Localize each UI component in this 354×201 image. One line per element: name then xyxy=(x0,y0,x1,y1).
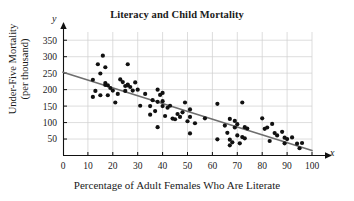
x-tick-label: 80 xyxy=(257,161,267,171)
data-point xyxy=(131,89,135,93)
data-point xyxy=(156,100,160,104)
data-point xyxy=(106,93,110,97)
data-point xyxy=(151,98,155,102)
data-point xyxy=(193,121,197,125)
data-point xyxy=(91,95,95,99)
scatter-plot-figure: Literacy and Child Mortality y x Under-F… xyxy=(0,0,354,201)
data-point xyxy=(188,115,192,119)
data-point xyxy=(225,131,229,135)
data-point xyxy=(156,88,160,92)
data-point xyxy=(148,104,152,108)
x-tick-label: 40 xyxy=(158,161,168,171)
data-point xyxy=(148,113,152,117)
data-point xyxy=(223,123,227,127)
data-point xyxy=(290,135,294,139)
data-point xyxy=(161,99,165,103)
data-point xyxy=(300,141,304,145)
data-point xyxy=(91,78,95,82)
data-point xyxy=(283,141,287,145)
data-point xyxy=(243,136,247,140)
data-point xyxy=(230,140,234,144)
data-point xyxy=(215,102,219,106)
data-point xyxy=(111,89,115,93)
data-point xyxy=(275,133,279,137)
data-point xyxy=(98,71,102,75)
plot-canvas: 0102030405060708090100501001502002503003… xyxy=(0,0,354,201)
y-tick-label: 100 xyxy=(43,118,58,128)
data-point xyxy=(268,139,272,143)
data-point xyxy=(163,114,167,118)
data-point xyxy=(116,92,120,96)
data-point xyxy=(203,116,207,120)
y-axis-arrowhead xyxy=(60,22,66,29)
data-point xyxy=(126,62,130,66)
data-point xyxy=(235,122,239,126)
data-point xyxy=(188,131,192,135)
x-tick-label: 70 xyxy=(233,161,243,171)
data-point xyxy=(260,116,264,120)
data-point xyxy=(215,137,219,141)
data-point xyxy=(123,89,127,93)
data-point xyxy=(103,65,107,69)
data-point xyxy=(285,137,289,141)
data-point xyxy=(270,122,274,126)
data-point xyxy=(143,92,147,96)
x-tick-label: 0 xyxy=(61,161,66,171)
data-point xyxy=(113,100,117,104)
x-tick-label: 60 xyxy=(208,161,218,171)
y-tick-label: 200 xyxy=(43,85,58,95)
data-point xyxy=(133,80,137,84)
x-axis-arrowhead xyxy=(325,152,332,158)
data-point xyxy=(136,88,140,92)
data-point xyxy=(128,85,132,89)
data-point xyxy=(188,107,192,111)
data-point xyxy=(168,104,172,108)
data-points xyxy=(91,54,304,151)
x-tick-label: 50 xyxy=(183,161,193,171)
data-point xyxy=(98,93,102,97)
y-tick-label: 350 xyxy=(43,36,58,46)
data-point xyxy=(178,115,182,119)
x-tick-label: 30 xyxy=(133,161,143,171)
data-point xyxy=(153,109,157,113)
y-tick-label: 50 xyxy=(48,134,58,144)
data-point xyxy=(180,110,184,114)
x-tick-label: 20 xyxy=(108,161,118,171)
data-point xyxy=(173,117,177,121)
data-point xyxy=(238,141,242,145)
data-point xyxy=(235,133,239,137)
data-point xyxy=(297,146,301,150)
data-point xyxy=(295,142,299,146)
x-tick-label: 90 xyxy=(282,161,292,171)
data-point xyxy=(161,104,165,108)
data-point xyxy=(228,117,232,121)
data-point xyxy=(280,130,284,134)
data-point xyxy=(161,91,165,95)
data-point xyxy=(101,54,105,58)
data-point xyxy=(265,125,269,129)
x-tick-label: 100 xyxy=(305,161,320,171)
data-point xyxy=(240,100,244,104)
x-tick-label: 10 xyxy=(83,161,93,171)
data-point xyxy=(183,100,187,104)
y-tick-label: 300 xyxy=(43,52,58,62)
data-point xyxy=(156,125,160,129)
data-point xyxy=(138,104,142,108)
data-point xyxy=(121,80,125,84)
tick-labels: 0102030405060708090100501001502002503003… xyxy=(43,36,320,171)
data-point xyxy=(185,119,189,123)
data-point xyxy=(93,89,97,93)
data-point xyxy=(96,62,100,66)
data-point xyxy=(245,126,249,130)
y-tick-label: 250 xyxy=(43,69,58,79)
y-tick-label: 150 xyxy=(43,102,58,112)
